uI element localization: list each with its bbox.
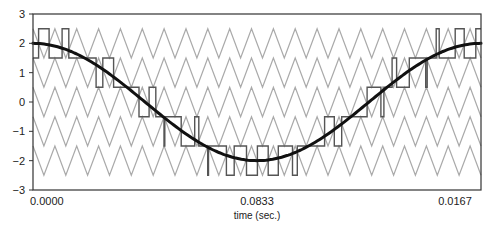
y-tick-label: 2 <box>19 37 25 49</box>
y-tick-label: 1 <box>19 67 25 79</box>
chart: 3210−1−2−3 0.0000 0.0833 0.0167 time (se… <box>0 0 491 229</box>
carrier-wave <box>33 29 481 58</box>
x-axis-title: time (sec.) <box>234 210 281 221</box>
carrier-wave <box>33 87 481 116</box>
y-tick-label: 0 <box>19 96 25 108</box>
x-tick-label-mid: 0.0833 <box>240 195 274 207</box>
carrier-wave <box>33 117 481 146</box>
x-tick-label-end: 0.0167 <box>438 195 472 207</box>
y-tick-label: 3 <box>19 8 25 20</box>
x-axis: 0.0000 0.0833 0.0167 time (sec.) <box>30 195 472 221</box>
x-tick-label-start: 0.0000 <box>30 195 64 207</box>
y-tick-label: −1 <box>12 125 25 137</box>
y-axis: 3210−1−2−3 <box>12 8 33 196</box>
y-tick-label: −2 <box>12 155 25 167</box>
carrier-wave <box>33 58 481 87</box>
y-tick-label: −3 <box>12 184 25 196</box>
